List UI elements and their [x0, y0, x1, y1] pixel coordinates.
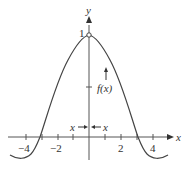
open-circle-marker: [87, 33, 91, 37]
x-axis-label: x: [175, 131, 181, 143]
tick-label-4: 4: [150, 142, 156, 154]
x-left-label: x: [69, 121, 75, 133]
tick-label-m2: −2: [50, 142, 62, 154]
y-axis-label: y: [85, 4, 91, 16]
chart: y x 1 −4 −2 2 4 f(x) x x: [0, 0, 188, 173]
x-right-label: x: [102, 121, 108, 133]
up-arrow-icon: [104, 67, 108, 72]
right-arrow-icon: [84, 125, 88, 129]
x-axis-arrow-icon: [167, 134, 174, 140]
tick-label-2: 2: [118, 142, 124, 154]
tick-label-m4: −4: [18, 142, 30, 154]
fx-label: f(x): [97, 82, 113, 95]
y-axis-arrow-icon: [86, 16, 92, 23]
y-one-label: 1: [79, 27, 85, 39]
left-arrow-icon: [91, 125, 95, 129]
